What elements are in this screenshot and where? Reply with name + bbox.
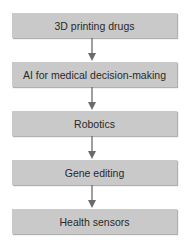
step-box-2: AI for medical decision-making	[12, 62, 177, 87]
down-arrow-icon	[87, 185, 97, 209]
step-box-4: Gene editing	[12, 160, 177, 185]
step-box-1: 3D printing drugs	[12, 13, 177, 38]
step-label: Robotics	[74, 118, 115, 130]
step-box-3: Robotics	[12, 111, 177, 136]
step-box-5: Health sensors	[12, 209, 177, 234]
step-label: AI for medical decision-making	[23, 69, 166, 81]
step-label: 3D printing drugs	[55, 20, 135, 32]
step-label: Health sensors	[59, 216, 129, 228]
step-label: Gene editing	[65, 167, 125, 179]
down-arrow-icon	[87, 87, 97, 111]
down-arrow-icon	[87, 136, 97, 160]
down-arrow-icon	[87, 38, 97, 62]
